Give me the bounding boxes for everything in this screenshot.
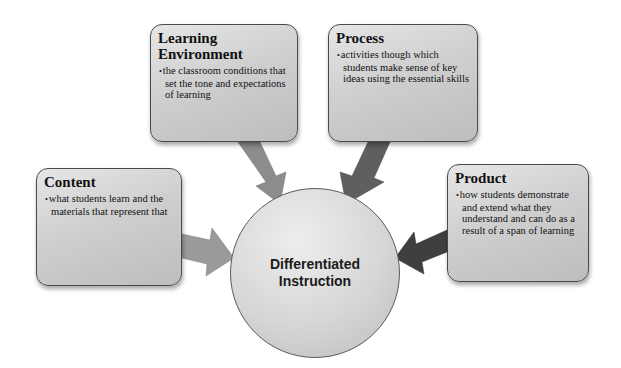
node-bullet: •what students learn and the materials t… [44,193,174,217]
bullet-icon: • [159,67,162,76]
node-bullet-text: activities though which students make se… [341,49,469,84]
node-bullet: •how students demonstrate and extend wha… [455,189,581,236]
node-bullet-text: what students learn and the materials th… [49,193,168,217]
bullet-icon: • [337,51,340,60]
node-process: Process •activities though which student… [328,24,478,142]
center-node-differentiated-instruction: Differentiated Instruction [230,188,400,358]
node-product: Product •how students demonstrate and ex… [447,164,589,282]
center-label-line1: Differentiated [270,256,360,273]
arrow-product [395,230,447,274]
node-title: Process [336,30,470,46]
node-bullet-text: how students demonstrate and extend what… [460,189,575,236]
node-bullet-text: the classroom conditions that set the to… [163,65,286,100]
center-label: Differentiated Instruction [270,256,360,290]
node-content: Content •what students learn and the mat… [36,168,182,286]
node-learning-environment: Learning Environment •the classroom cond… [150,24,298,142]
bullet-icon: • [45,195,48,204]
node-title-line2: Environment [158,46,290,62]
node-bullet: •activities though which students make s… [336,49,470,85]
node-title: Product [455,170,581,186]
node-title-line1: Learning [158,30,290,46]
node-title: Content [44,174,174,190]
node-bullet: •the classroom conditions that set the t… [158,65,290,101]
node-title: Learning Environment [158,30,290,62]
bullet-icon: • [456,191,459,200]
arrow-content [182,228,234,276]
center-label-line2: Instruction [270,273,360,290]
